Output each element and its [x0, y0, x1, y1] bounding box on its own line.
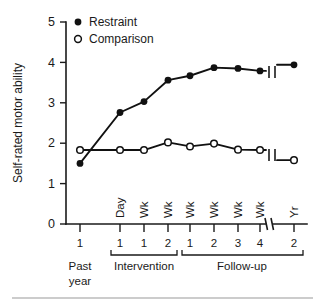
x-unit-label-8: Yr: [288, 206, 300, 218]
data-point-restraint-3: [165, 77, 172, 84]
group-label-past-line1: Past: [68, 260, 92, 272]
data-point-restraint-8: [291, 61, 298, 68]
legend-label-comparison: Comparison: [89, 32, 154, 46]
x-unit-label-1: Day: [114, 197, 126, 218]
x-num-label-2: 1: [141, 237, 147, 249]
group-bracket-intervention: [111, 250, 177, 255]
y-tick-label-0: 0: [48, 217, 55, 231]
data-point-comparison-1: [117, 147, 124, 154]
y-tick-label-5: 5: [48, 15, 55, 29]
x-unit-label-4: Wk: [184, 201, 196, 218]
data-point-restraint-5: [211, 64, 218, 71]
x-num-label-0: 1: [77, 237, 83, 249]
data-point-restraint-6: [235, 65, 242, 72]
x-axis: Day Wk Wk Wk Wk Wk Wk Yr 1 1 1 2 1 2 3 4…: [66, 197, 307, 287]
series-break-marks: [269, 66, 275, 161]
data-point-comparison-3: [165, 139, 172, 146]
x-num-label-1: 1: [117, 237, 123, 249]
x-num-label-8: 2: [291, 237, 297, 249]
y-tick-label-1: 1: [48, 177, 55, 191]
y-axis: 5 4 3 2 1 0 Self-rated motor ability: [11, 15, 66, 231]
x-num-label-6: 3: [235, 237, 241, 249]
group-label-intervention: Intervention: [114, 260, 174, 272]
y-tick-label-2: 2: [48, 136, 55, 150]
x-num-label-5: 2: [211, 237, 217, 249]
data-point-restraint-1: [117, 109, 124, 116]
data-point-restraint-4: [187, 72, 194, 79]
legend-marker-comparison-icon: [75, 36, 82, 43]
x-unit-label-6: Wk: [232, 201, 244, 218]
legend-label-restraint: Restraint: [89, 15, 138, 29]
x-num-label-7: 4: [257, 237, 264, 249]
y-axis-title: Self-rated motor ability: [11, 63, 25, 183]
group-label-past-line2: year: [69, 275, 92, 287]
y-tick-label-4: 4: [48, 56, 55, 70]
data-point-comparison-5: [211, 140, 218, 147]
data-point-restraint-7: [257, 67, 264, 74]
x-unit-label-3: Wk: [162, 201, 174, 218]
data-point-comparison-2: [141, 147, 148, 154]
chart-figure: 5 4 3 2 1 0 Self-rated motor ability Day: [0, 0, 325, 304]
data-point-comparison-4: [187, 143, 194, 150]
group-bracket-followup: [182, 250, 303, 255]
x-unit-label-2: Wk: [138, 201, 150, 218]
series-layer: [77, 61, 298, 166]
data-point-comparison-6: [235, 146, 242, 153]
x-num-label-4: 1: [187, 237, 193, 249]
legend-marker-restraint-icon: [75, 19, 82, 26]
x-unit-label-7: Wk: [254, 201, 266, 218]
chart-legend: Restraint Comparison: [75, 15, 154, 46]
chart-canvas: 5 4 3 2 1 0 Self-rated motor ability Day: [0, 0, 325, 304]
x-unit-label-5: Wk: [208, 201, 220, 218]
data-point-comparison-8: [291, 157, 298, 164]
data-point-comparison-0: [77, 147, 84, 154]
data-point-restraint-0: [77, 160, 84, 167]
data-point-comparison-7: [257, 147, 264, 154]
series-comparison: [77, 139, 298, 163]
group-label-followup: Follow-up: [217, 260, 267, 272]
x-num-label-3: 2: [165, 237, 171, 249]
y-tick-label-3: 3: [48, 96, 55, 110]
data-point-restraint-2: [141, 98, 148, 105]
